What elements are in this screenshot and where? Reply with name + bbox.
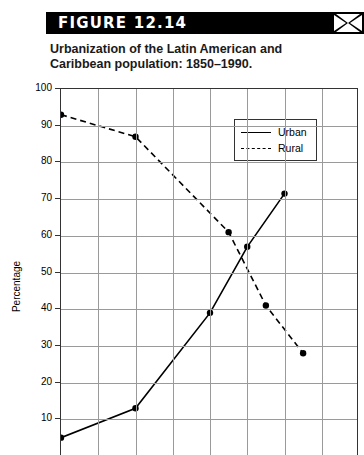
gridline-vertical	[98, 89, 99, 455]
legend-swatch-urban	[241, 132, 271, 133]
gridline-horizontal	[61, 126, 357, 127]
chart-area: Percentage Urban Rural 10090807060504030…	[0, 76, 364, 455]
data-point-rural	[225, 229, 231, 235]
y-axis-tick-mark	[55, 198, 60, 199]
y-axis-tick-mark	[55, 345, 60, 346]
gridline-horizontal	[61, 199, 357, 200]
gridline-horizontal	[61, 236, 357, 237]
caption-line-1: Urbanization of the Latin American and	[50, 42, 350, 57]
gridline-vertical	[210, 89, 211, 455]
y-axis-tick-label: 80	[22, 156, 52, 166]
gridline-vertical	[173, 89, 174, 455]
y-axis-tick-mark	[55, 235, 60, 236]
data-point-rural	[300, 350, 306, 356]
y-axis-tick-label: 100	[22, 83, 52, 93]
gridline-horizontal	[61, 273, 357, 274]
y-axis-tick-label: 30	[22, 340, 52, 350]
caption-line-2: Caribbean population: 1850–1990.	[50, 57, 350, 72]
plot-area: Urban Rural	[60, 88, 358, 455]
y-axis-tick-label: 50	[22, 267, 52, 277]
data-point-urban	[60, 434, 64, 440]
y-axis-tick-label: 20	[22, 377, 52, 387]
y-axis-label: Percentage	[11, 247, 22, 327]
y-axis-tick-mark	[55, 88, 60, 89]
figure-caption: Urbanization of the Latin American and C…	[50, 42, 350, 72]
gridline-vertical	[247, 89, 248, 455]
y-axis-tick-mark	[55, 125, 60, 126]
y-axis-tick-label: 70	[22, 193, 52, 203]
data-point-rural	[60, 111, 64, 117]
y-axis-tick-mark	[55, 272, 60, 273]
gridline-vertical	[136, 89, 137, 455]
figure-page: FIGURE 12.14 Urbanization of the Latin A…	[0, 0, 364, 455]
x-logo-icon	[333, 13, 363, 33]
figure-number-label: FIGURE 12.14	[58, 14, 187, 32]
legend-item-rural: Rural	[241, 140, 307, 156]
gridline-vertical	[322, 89, 323, 455]
y-axis-tick-mark	[55, 418, 60, 419]
legend-swatch-rural	[241, 148, 271, 149]
y-axis-tick-mark	[55, 308, 60, 309]
y-axis-tick-label: 40	[22, 303, 52, 313]
gridline-horizontal	[61, 162, 357, 163]
y-axis-tick-label: 60	[22, 230, 52, 240]
legend-label-urban: Urban	[278, 126, 307, 138]
legend-label-rural: Rural	[278, 142, 303, 154]
gridline-horizontal	[61, 383, 357, 384]
y-axis-tick-label: 10	[22, 413, 52, 423]
gridline-horizontal	[61, 419, 357, 420]
y-axis-tick-mark	[55, 161, 60, 162]
y-axis-tick-mark	[55, 382, 60, 383]
gridline-vertical	[285, 89, 286, 455]
y-axis-tick-label: 90	[22, 120, 52, 130]
gridline-horizontal	[61, 346, 357, 347]
data-point-rural	[263, 302, 269, 308]
gridline-horizontal	[61, 309, 357, 310]
figure-header-bar: FIGURE 12.14	[46, 12, 364, 34]
